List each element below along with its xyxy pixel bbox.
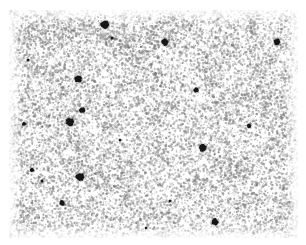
image-canvas: Grayscale speckle field with dark inclus…: [0, 0, 306, 245]
speckle-plate: [9, 10, 298, 238]
dark-inclusion-layer: [9, 10, 298, 238]
image-title: Grayscale speckle field with dark inclus…: [0, 0, 1, 1]
